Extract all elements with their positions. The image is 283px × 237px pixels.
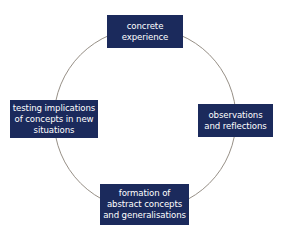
node-testing-implications: testing implications of concepts in new … [10, 100, 98, 138]
node-observations-and-reflections: observations and reflections [198, 104, 273, 137]
node-label-line: formation of [119, 188, 171, 199]
node-label-line: situations [34, 125, 75, 136]
node-label-line: of concepts in new [14, 114, 93, 125]
node-concrete-experience: concrete experience [107, 15, 183, 48]
node-label-line: concrete [127, 21, 164, 32]
node-formation-of-abstract-concepts: formation of abstract concepts and gener… [100, 184, 189, 225]
node-label-line: abstract concepts [107, 199, 182, 210]
node-label-line: testing implications [13, 103, 95, 114]
node-label-line: observations [208, 110, 262, 121]
node-label-line: and reflections [204, 121, 266, 132]
node-label-line: experience [122, 32, 169, 43]
node-label-line: and generalisations [103, 210, 186, 221]
